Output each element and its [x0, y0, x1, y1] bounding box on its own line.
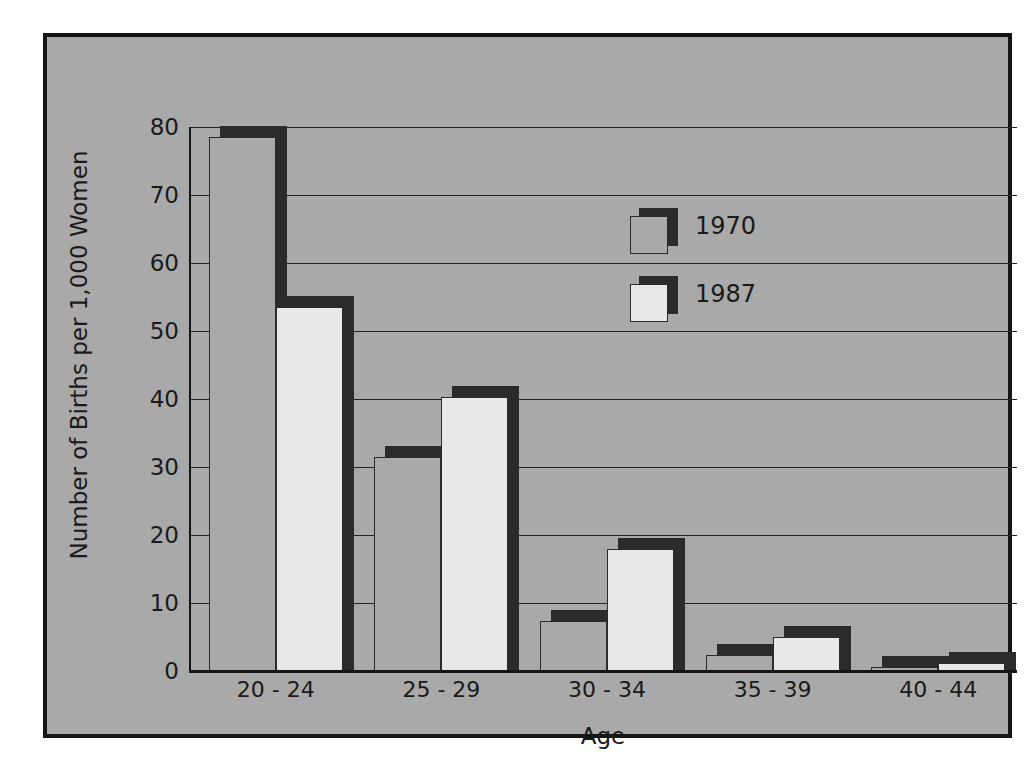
y-axis-tick-label: 60	[133, 252, 179, 275]
bar-1970-20-24[interactable]	[209, 137, 276, 671]
x-axis-tick-label: 35 - 39	[734, 677, 812, 702]
y-axis-tick-labels: 01020304050607080	[133, 127, 179, 671]
y-axis-tick-label: 50	[133, 320, 179, 343]
legend-swatch-1987	[630, 284, 668, 322]
x-axis-title: Age	[189, 723, 1017, 749]
figure-canvas: 01020304050607080 Number of Births per 1…	[0, 0, 1030, 780]
bar-1987-25-29[interactable]	[441, 397, 508, 671]
bar-1987-35-39[interactable]	[773, 637, 840, 671]
y-axis-tick-label: 30	[133, 456, 179, 479]
legend-swatch-1970	[630, 216, 668, 254]
bar-1970-35-39[interactable]	[706, 655, 773, 671]
y-axis-tick-label: 80	[133, 116, 179, 139]
x-axis-line	[189, 670, 1017, 673]
y-axis-tick-label: 20	[133, 524, 179, 547]
gridline	[189, 263, 1017, 264]
y-axis-tick-label: 10	[133, 592, 179, 615]
legend-swatch-wrapper	[630, 208, 678, 254]
bar-1987-30-34[interactable]	[607, 549, 674, 671]
chart-frame: 01020304050607080 Number of Births per 1…	[43, 33, 1012, 738]
legend-label-1987: 1987	[695, 280, 756, 308]
legend-swatch-wrapper	[630, 276, 678, 322]
plot-area	[189, 127, 1017, 671]
legend-item-1987[interactable]: 1987	[630, 268, 860, 336]
x-axis-tick-label: 30 - 34	[568, 677, 646, 702]
legend-item-1970[interactable]: 1970	[630, 200, 860, 268]
bar-1970-25-29[interactable]	[374, 457, 441, 671]
x-axis-tick-labels: 20 - 2425 - 2930 - 3435 - 3940 - 44	[189, 677, 1017, 717]
x-axis-tick-label: 40 - 44	[899, 677, 977, 702]
gridline	[189, 195, 1017, 196]
bar-1987-20-24[interactable]	[276, 307, 343, 671]
y-axis-tick-label: 70	[133, 184, 179, 207]
gridline	[189, 127, 1017, 128]
legend: 19701987	[630, 200, 860, 336]
y-axis-title: Number of Births per 1,000 Women	[66, 85, 92, 625]
legend-label-1970: 1970	[695, 212, 756, 240]
y-axis-line	[189, 127, 191, 671]
y-axis-tick-label: 0	[133, 660, 179, 683]
x-axis-tick-label: 20 - 24	[237, 677, 315, 702]
bar-1970-30-34[interactable]	[540, 621, 607, 671]
x-axis-tick-label: 25 - 29	[402, 677, 480, 702]
y-axis-tick-label: 40	[133, 388, 179, 411]
